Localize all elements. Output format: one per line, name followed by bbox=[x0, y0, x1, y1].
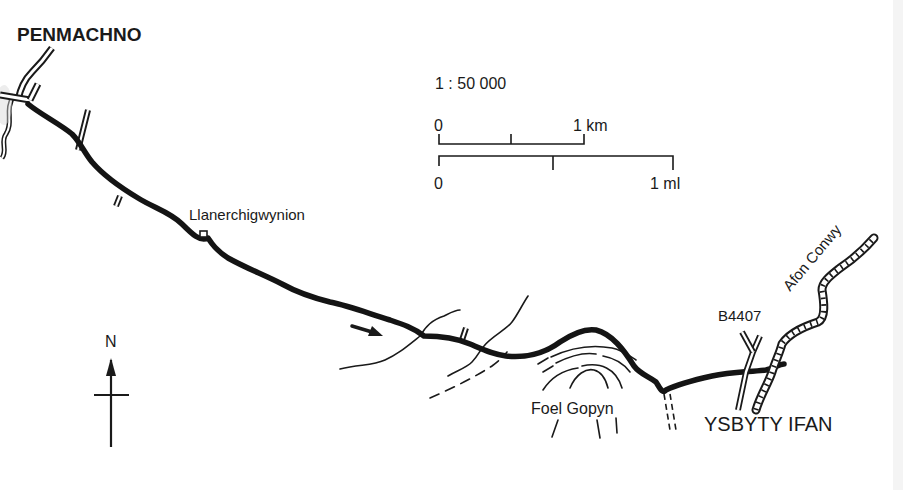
north-arrow-icon: N bbox=[94, 333, 129, 447]
side-tracks bbox=[78, 110, 466, 340]
scale-km-bar bbox=[439, 134, 584, 144]
north-label: N bbox=[105, 333, 117, 350]
hill-contours bbox=[538, 346, 636, 438]
label-penmachno: PENMACHNO bbox=[17, 24, 142, 45]
route-map: PENMACHNO Llanerchigwynion Foel Gopyn YS… bbox=[0, 0, 903, 490]
scale-km-zero: 0 bbox=[434, 117, 443, 134]
scale-ml-bar bbox=[439, 156, 673, 170]
label-foel-gopyn: Foel Gopyn bbox=[531, 400, 614, 417]
label-b4407: B4407 bbox=[718, 307, 761, 324]
building-square-icon bbox=[200, 231, 207, 237]
scale-km-end: 1 km bbox=[573, 117, 608, 134]
scale-ratio: 1 : 50 000 bbox=[435, 75, 506, 92]
road-south-dashed bbox=[664, 394, 676, 430]
page-edge bbox=[893, 0, 903, 490]
scale-bar: 1 : 50 000 0 1 km 0 1 ml bbox=[434, 75, 680, 192]
walking-route bbox=[28, 104, 784, 391]
direction-arrow-icon bbox=[352, 326, 383, 336]
scale-ml-end: 1 ml bbox=[650, 175, 680, 192]
footpath-dashed bbox=[430, 352, 507, 398]
label-llanerchigwynion: Llanerchigwynion bbox=[189, 206, 305, 223]
label-ysbyty-ifan: YSBYTY IFAN bbox=[704, 413, 833, 435]
label-afon-conwy: Afon Conwy bbox=[779, 221, 844, 294]
scale-ml-zero: 0 bbox=[434, 175, 443, 192]
